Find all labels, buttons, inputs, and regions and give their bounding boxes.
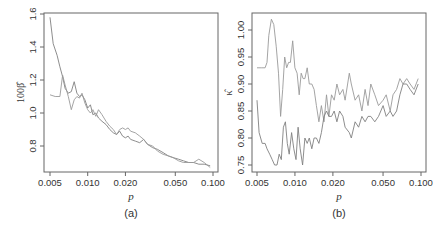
y-tick-label: 0.8: [27, 139, 38, 152]
series-group-a: [50, 17, 210, 167]
figure: 0.81.01.21.41.6 0.0050.0100.0200.0500.10…: [0, 0, 447, 227]
data-line-1: [50, 17, 210, 166]
series-group-b: [257, 19, 418, 165]
x-tick-label: 0.100: [201, 177, 225, 188]
x-tick-label: 0.020: [321, 177, 345, 188]
y-tick-label: 0.85: [235, 102, 246, 121]
y-tick-label: 0.75: [235, 156, 246, 175]
y-tick-label: 0.80: [235, 129, 246, 148]
y-axis-a: 0.81.01.21.41.6: [27, 7, 44, 152]
x-tick-label: 0.050: [163, 177, 187, 188]
x-tick-label: 0.005: [245, 177, 269, 188]
x-tick-label: 0.050: [371, 177, 395, 188]
y-axis-title-a: 100β̂: [15, 81, 26, 103]
x-axis-a: 0.0050.0100.0200.0500.100: [38, 172, 225, 188]
x-axis-title-b: p: [335, 190, 342, 202]
y-tick-label: 1.0: [27, 106, 38, 119]
x-axis-b: 0.0050.0100.0200.0500.100: [245, 172, 433, 188]
x-tick-label: 0.010: [76, 177, 100, 188]
panel-b: 0.750.800.850.900.951.00 0.0050.0100.020…: [223, 13, 433, 219]
y-tick-label: 0.95: [235, 48, 246, 67]
data-line-1: [257, 19, 418, 122]
data-line-2: [257, 84, 418, 165]
y-tick-label: 1.00: [235, 21, 246, 40]
x-tick-label: 0.010: [283, 177, 307, 188]
x-tick-label: 0.020: [114, 177, 138, 188]
x-axis-title-a: p: [127, 190, 134, 202]
y-tick-label: 1.2: [27, 73, 38, 86]
data-line-2: [50, 75, 210, 167]
y-tick-label: 1.4: [27, 40, 38, 53]
panel-label-b: (b): [332, 207, 345, 219]
panel-label-a: (a): [124, 207, 137, 219]
x-tick-label: 0.100: [409, 177, 433, 188]
y-axis-title-b: κ̂: [223, 88, 234, 95]
x-tick-label: 0.005: [38, 177, 62, 188]
y-axis-b: 0.750.800.850.900.951.00: [235, 21, 252, 175]
y-tick-label: 0.90: [235, 75, 246, 94]
y-tick-label: 1.6: [27, 7, 38, 20]
panel-a: 0.81.01.21.41.6 0.0050.0100.0200.0500.10…: [15, 7, 225, 219]
